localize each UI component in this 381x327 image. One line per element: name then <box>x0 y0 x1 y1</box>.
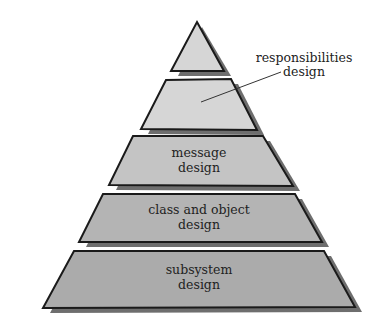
pyramid-layer-responsibilities <box>141 79 257 130</box>
pyramid-layer-top <box>171 22 224 71</box>
pyramid-svg: responsibilities design message design c… <box>0 0 381 327</box>
label-message-line2: design <box>178 160 220 175</box>
label-subsystem-line2: design <box>178 277 220 292</box>
label-responsibilities-line1: responsibilities <box>256 50 353 65</box>
label-subsystem-line1: subsystem <box>166 262 233 277</box>
label-class-object-line1: class and object <box>148 202 250 217</box>
label-message-line1: message <box>172 145 227 160</box>
label-class-object-line2: design <box>178 217 220 232</box>
pyramid-diagram: responsibilities design message design c… <box>0 0 381 327</box>
label-responsibilities-line2: design <box>283 64 325 79</box>
